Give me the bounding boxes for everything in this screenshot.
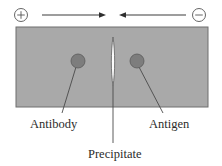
migration-arrow-leftward xyxy=(119,12,186,17)
migration-arrow-rightward xyxy=(42,12,106,17)
antibody-spot xyxy=(71,54,85,68)
antigen-spot xyxy=(130,54,144,68)
antigen-label: Antigen xyxy=(149,117,190,131)
cathode-negative-electrode xyxy=(193,9,206,22)
precipitate-band xyxy=(111,37,114,86)
immunoelectrophoresis-diagram: Antibody Antigen Precipitate xyxy=(0,0,222,166)
precipitate-label: Precipitate xyxy=(88,147,142,161)
anode-positive-electrode xyxy=(15,9,28,22)
antibody-label: Antibody xyxy=(30,117,78,131)
